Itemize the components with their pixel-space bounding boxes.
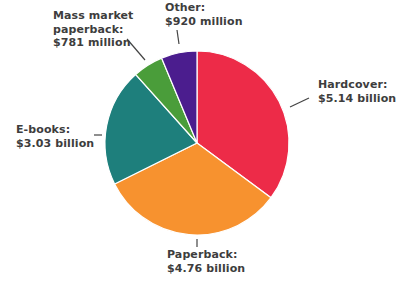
label-mass-market-line2: paperback: [53, 23, 133, 37]
label-hardcover-value: $5.14 billion [318, 92, 396, 106]
label-ebooks: E-books: $3.03 billion [16, 123, 94, 150]
label-ebooks-value: $3.03 billion [16, 137, 94, 151]
leader-line-hardcover [290, 98, 309, 107]
label-ebooks-line1: E-books: [16, 123, 94, 137]
label-other: Other: $920 million [165, 1, 243, 28]
label-hardcover-line1: Hardcover: [318, 78, 396, 92]
label-mass-market: Mass market paperback: $781 million [53, 9, 133, 50]
label-mass-market-value: $781 million [53, 36, 133, 50]
label-other-line1: Other: [165, 1, 243, 15]
label-other-value: $920 million [165, 15, 243, 29]
leader-line-other [177, 30, 179, 44]
label-mass-market-line1: Mass market [53, 9, 133, 23]
label-paperback: Paperback: $4.76 billion [167, 248, 245, 275]
label-paperback-value: $4.76 billion [167, 262, 245, 276]
pie-slices [105, 51, 289, 235]
label-hardcover: Hardcover: $5.14 billion [318, 78, 396, 105]
label-paperback-line1: Paperback: [167, 248, 245, 262]
